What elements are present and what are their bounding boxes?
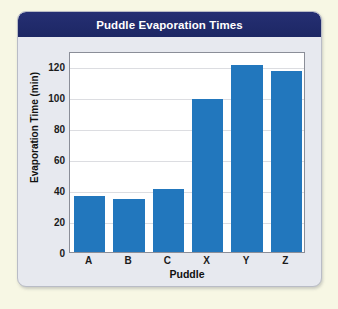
- bar-y: [231, 65, 262, 252]
- x-tick-label: A: [85, 255, 92, 266]
- x-tick-label: C: [164, 255, 171, 266]
- chart-title: Puddle Evaporation Times: [96, 19, 243, 31]
- y-tick-label: 40: [54, 186, 65, 197]
- gridline: [70, 99, 304, 100]
- chart-card: Puddle Evaporation Times Evaporation Tim…: [17, 11, 322, 287]
- y-tick-label: 80: [54, 124, 65, 135]
- y-axis-tick-labels: 020406080100120: [24, 52, 65, 253]
- y-tick-label: 100: [48, 93, 65, 104]
- gridline: [70, 161, 304, 162]
- gridline: [70, 192, 304, 193]
- x-axis-tick-labels: ABCXYZ: [69, 255, 305, 269]
- bar-c: [153, 189, 184, 252]
- x-tick-label: X: [203, 255, 210, 266]
- x-tick-label: Z: [282, 255, 288, 266]
- y-tick-label: 20: [54, 217, 65, 228]
- x-axis-title: Puddle: [69, 268, 305, 280]
- bar-z: [271, 71, 302, 252]
- chart-title-bar: Puddle Evaporation Times: [18, 12, 321, 37]
- bar-x: [192, 99, 223, 252]
- plot-area: [70, 53, 304, 252]
- y-tick-label: 0: [59, 248, 65, 259]
- y-tick-label: 120: [48, 62, 65, 73]
- x-tick-label: B: [124, 255, 131, 266]
- gridline: [70, 130, 304, 131]
- x-tick-label: Y: [243, 255, 250, 266]
- plot-frame: [69, 52, 305, 253]
- gridline: [70, 68, 304, 69]
- bar-a: [74, 196, 105, 252]
- y-tick-label: 60: [54, 155, 65, 166]
- bar-b: [113, 199, 144, 252]
